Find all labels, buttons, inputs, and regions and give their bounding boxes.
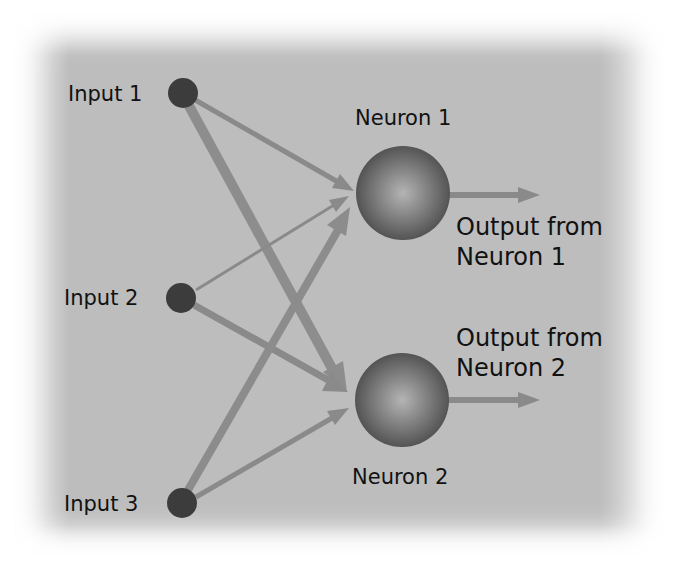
neuron-1-label: Neuron 1 <box>355 105 451 131</box>
edge-input3-neuron2 <box>196 408 349 497</box>
input-3-label: Input 3 <box>64 491 138 517</box>
neuron-1-sphere <box>356 146 450 240</box>
output-arrow-neuron2 <box>448 392 540 408</box>
input-node-2 <box>166 283 196 313</box>
output-arrow-neuron1 <box>448 187 540 203</box>
output-2-label-line1: Output from <box>456 323 603 353</box>
input-node-3 <box>167 488 197 518</box>
neuron-2-label: Neuron 2 <box>352 464 448 490</box>
output-2-label-line2: Neuron 2 <box>456 353 566 383</box>
output-1-label-line1: Output from <box>456 212 603 242</box>
input-1-label: Input 1 <box>68 81 142 107</box>
output-1-label-line2: Neuron 1 <box>456 242 566 272</box>
input-node-1 <box>168 78 198 108</box>
input-2-label: Input 2 <box>64 285 138 311</box>
neuron-2-sphere <box>355 353 449 447</box>
